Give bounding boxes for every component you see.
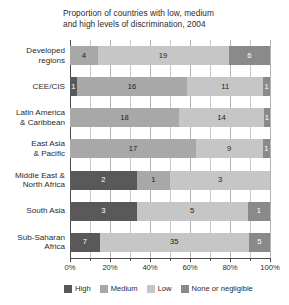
bar-segment[interactable]: 5 (249, 233, 270, 252)
bar-segment[interactable]: 1 (263, 77, 270, 96)
bar-segment-value: 11 (187, 82, 263, 91)
bar-segment-value: 7 (70, 237, 100, 246)
bar-segment-value: 16 (77, 82, 187, 91)
x-axis-tick-label: 100% (260, 263, 279, 272)
bar-segment-value: 14 (179, 113, 264, 122)
chart-title: Proportion of countries with low, medium… (63, 8, 283, 29)
category-label: East Asia& Pacific (0, 139, 65, 158)
bar-segment-value: 1 (137, 175, 170, 184)
bar-segment-value: 18 (70, 113, 179, 122)
category-label: Sub-SaharanAfrica (0, 233, 65, 252)
category-label-line: Latin America (16, 108, 65, 117)
bar-segment[interactable]: 5 (137, 202, 248, 221)
legend-label: High (75, 284, 91, 293)
bar-track: 116111 (70, 77, 270, 96)
x-axis-labels: 0%20%40%60%80%100% (70, 263, 271, 275)
legend-swatch-icon (64, 285, 72, 293)
bar-segment-value: 1 (248, 206, 270, 215)
bar-segment-value: 17 (70, 144, 196, 153)
bar-segment[interactable]: 6 (229, 46, 270, 65)
bar-segment-value: 3 (70, 206, 137, 215)
bar-track: 4196 (70, 46, 270, 65)
bar-segment-value: 5 (249, 237, 270, 246)
bar-segment[interactable]: 18 (70, 108, 179, 127)
category-label-line: North Africa (23, 180, 65, 189)
bar-segment[interactable]: 2 (70, 171, 137, 190)
legend-item[interactable]: Low (147, 284, 172, 293)
x-tick-minor (210, 258, 211, 261)
category-label: Latin America& Caribbean (0, 108, 65, 127)
plot-area: 41961161111814117912133517355 (70, 40, 270, 258)
bar-track: 1791 (70, 139, 270, 158)
bar-segment[interactable]: 1 (137, 171, 170, 190)
category-label: CEE/CIS (0, 82, 65, 92)
bar-row: 351 (70, 196, 270, 227)
legend-item[interactable]: Medium (100, 284, 138, 293)
x-tick-minor (90, 258, 91, 261)
bar-segment[interactable]: 3 (70, 202, 137, 221)
bar-segment-value: 19 (98, 51, 229, 60)
legend-label: None or negligible (192, 284, 253, 293)
bar-segment[interactable]: 17 (70, 139, 196, 158)
x-tick-major (150, 258, 151, 262)
legend-label: Medium (111, 284, 138, 293)
category-label-line: & Caribbean (20, 118, 65, 127)
category-label-line: & Pacific (34, 149, 66, 158)
x-tick-minor (170, 258, 171, 261)
bar-segment[interactable]: 3 (170, 171, 270, 190)
category-label-line: regions (38, 56, 65, 65)
bar-segment-value: 1 (263, 82, 270, 91)
x-axis-tick-label: 60% (182, 263, 197, 272)
bar-track: 213 (70, 171, 270, 190)
bar-row: 7355 (70, 227, 270, 258)
bar-segment[interactable]: 4 (70, 46, 98, 65)
bar-row: 116111 (70, 71, 270, 102)
bar-segment[interactable]: 1 (70, 77, 77, 96)
legend-label: Low (158, 284, 172, 293)
bar-segment-value: 1 (264, 113, 270, 122)
bar-segment-value: 9 (196, 144, 263, 153)
bar-row: 18141 (70, 102, 270, 133)
x-tick-major (110, 258, 111, 262)
bar-segment[interactable]: 14 (179, 108, 264, 127)
chart-title-line-2: and high levels of discrimination, 2004 (63, 19, 206, 29)
bar-segment-value: 1 (263, 144, 270, 153)
category-label-line: Sub-Saharan (17, 233, 65, 242)
legend-item[interactable]: High (64, 284, 91, 293)
category-label-line: Africa (44, 242, 65, 251)
bar-segment-value: 5 (137, 206, 248, 215)
bar-row: 4196 (70, 40, 270, 71)
bar-segment[interactable]: 19 (98, 46, 229, 65)
bar-segment[interactable]: 11 (187, 77, 263, 96)
category-label-line: East Asia (31, 139, 65, 148)
bar-segment-value: 6 (229, 51, 270, 60)
category-label-line: South Asia (26, 206, 65, 215)
bar-segment[interactable]: 16 (77, 77, 187, 96)
legend-swatch-icon (147, 285, 155, 293)
chart-title-line-1: Proportion of countries with low, medium (63, 8, 214, 18)
bar-segment-value: 1 (70, 82, 77, 91)
legend-item[interactable]: None or negligible (181, 284, 253, 293)
legend-swatch-icon (181, 285, 189, 293)
x-tick-major (190, 258, 191, 262)
bar-segment[interactable]: 7 (70, 233, 100, 252)
bar-track: 351 (70, 202, 270, 221)
category-label-line: Middle East & (15, 171, 65, 180)
x-axis-tick-label: 20% (102, 263, 117, 272)
x-tick-major (270, 258, 271, 262)
bar-segment[interactable]: 1 (263, 139, 270, 158)
category-label: Middle East &North Africa (0, 171, 65, 190)
bar-segment[interactable]: 1 (248, 202, 270, 221)
bar-track: 7355 (70, 233, 270, 252)
x-tick-minor (130, 258, 131, 261)
bar-segment-value: 35 (100, 237, 249, 246)
category-label-line: Developed (26, 46, 65, 55)
bar-segment[interactable]: 35 (100, 233, 249, 252)
x-tick-major (230, 258, 231, 262)
bar-segment-value: 4 (70, 51, 98, 60)
bar-segment[interactable]: 9 (196, 139, 263, 158)
x-axis-tick-label: 80% (222, 263, 237, 272)
bar-segment[interactable]: 1 (264, 108, 270, 127)
category-label: South Asia (0, 206, 65, 216)
chart-legend: HighMediumLowNone or negligible (64, 282, 262, 295)
